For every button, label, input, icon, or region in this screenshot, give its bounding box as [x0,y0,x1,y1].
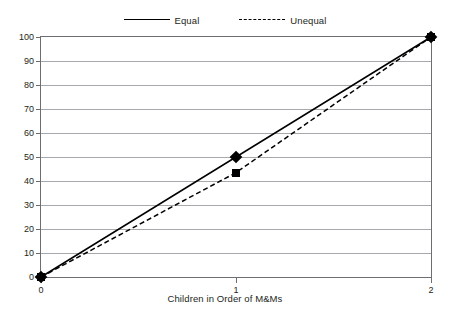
legend-key-equal [124,14,170,26]
data-point-unequal [236,173,244,181]
legend-label-equal: Equal [175,15,200,26]
y-axis-tick-label: 100 [19,32,34,42]
data-point-equal [236,157,245,166]
x-axis-tick [236,277,237,283]
chart-legend: Equal Unequal [0,11,450,29]
chart-figure: Equal Unequal 0102030405060708090100 012… [0,0,450,317]
legend-line-solid [124,19,170,20]
y-axis-tick-label: 90 [24,56,34,66]
plot-area: 0102030405060708090100 012 [40,36,432,278]
data-point-unequal [41,277,49,285]
y-axis-tick-label: 40 [24,176,34,186]
y-axis-tick-label: 20 [24,224,34,234]
legend-key-unequal [239,14,285,26]
y-axis-tick-label: 50 [24,152,34,162]
y-axis-tick-label: 60 [24,128,34,138]
y-axis-tick-label: 70 [24,104,34,114]
data-point-unequal [431,37,439,45]
legend-item-equal: Equal [124,14,200,26]
legend-item-unequal: Unequal [239,14,326,26]
x-axis-title: Children in Order of M&Ms [0,293,450,304]
y-axis-tick-label: 0 [29,272,34,282]
x-axis-tick [431,277,432,283]
y-axis-tick-label: 30 [24,200,34,210]
y-axis-tick-label: 80 [24,80,34,90]
y-axis-tick-label: 10 [24,248,34,258]
legend-label-unequal: Unequal [290,15,326,26]
legend-line-dashed [239,19,285,20]
